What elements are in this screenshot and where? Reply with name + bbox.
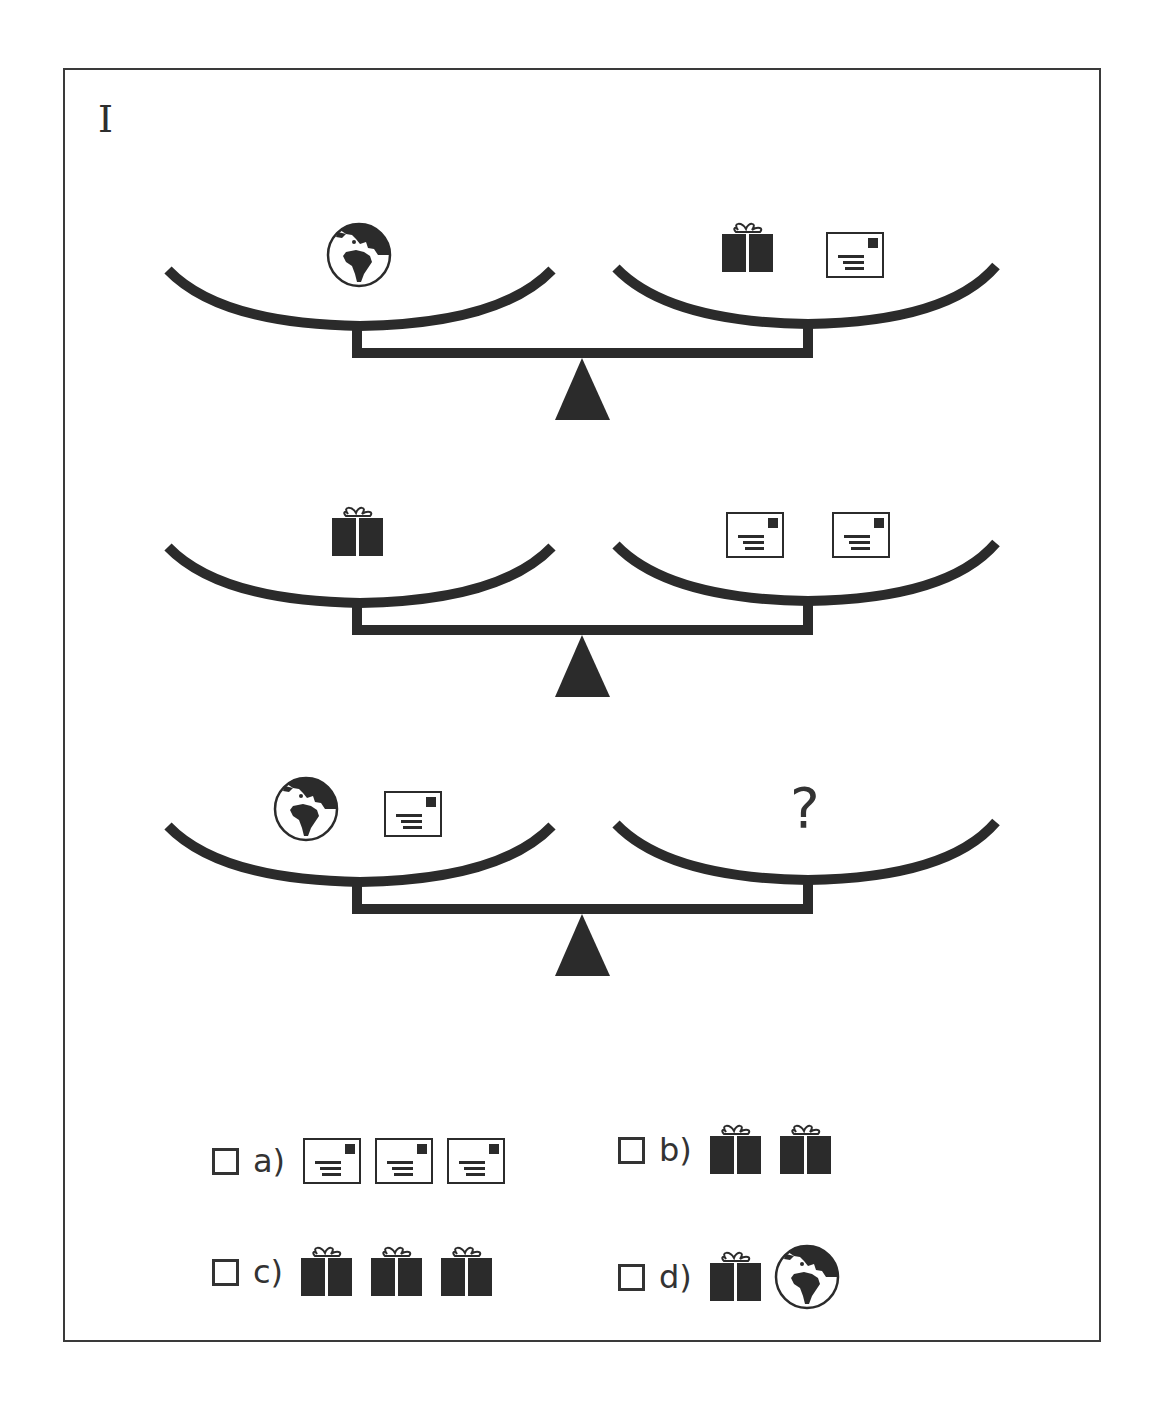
gift-icon — [441, 1246, 493, 1298]
option-d[interactable]: d) — [618, 1244, 840, 1310]
gift-icon — [780, 1124, 832, 1176]
gift-icon — [332, 508, 383, 556]
option-a-checkbox[interactable] — [212, 1148, 239, 1175]
option-a-label: a) — [253, 1145, 285, 1177]
globe-icon — [328, 224, 390, 286]
globe-icon — [774, 1244, 840, 1310]
unknown-weight-question-mark: ? — [790, 780, 820, 836]
option-d-checkbox[interactable] — [618, 1264, 645, 1291]
gift-icon — [371, 1246, 423, 1298]
option-d-label: d) — [659, 1261, 692, 1293]
globe-icon — [275, 778, 337, 840]
option-c-checkbox[interactable] — [212, 1259, 239, 1286]
envelope-icon — [385, 792, 441, 836]
envelope-icon — [827, 233, 883, 277]
envelope-icon — [833, 513, 889, 557]
envelope-icon — [727, 513, 783, 557]
option-c-label: c) — [253, 1256, 283, 1288]
option-b[interactable]: b) — [618, 1124, 832, 1176]
envelope-icon — [447, 1138, 505, 1184]
option-a[interactable]: a) — [212, 1138, 505, 1184]
gift-icon — [722, 224, 773, 272]
gift-icon — [301, 1246, 353, 1298]
option-b-label: b) — [659, 1134, 692, 1166]
option-c[interactable]: c) — [212, 1246, 493, 1298]
envelope-icon — [303, 1138, 361, 1184]
gift-icon — [710, 1124, 762, 1176]
gift-icon — [710, 1251, 762, 1303]
scale-1 — [168, 224, 996, 420]
scale-2 — [168, 508, 996, 697]
scale-3 — [168, 778, 996, 976]
envelope-icon — [375, 1138, 433, 1184]
option-b-checkbox[interactable] — [618, 1137, 645, 1164]
